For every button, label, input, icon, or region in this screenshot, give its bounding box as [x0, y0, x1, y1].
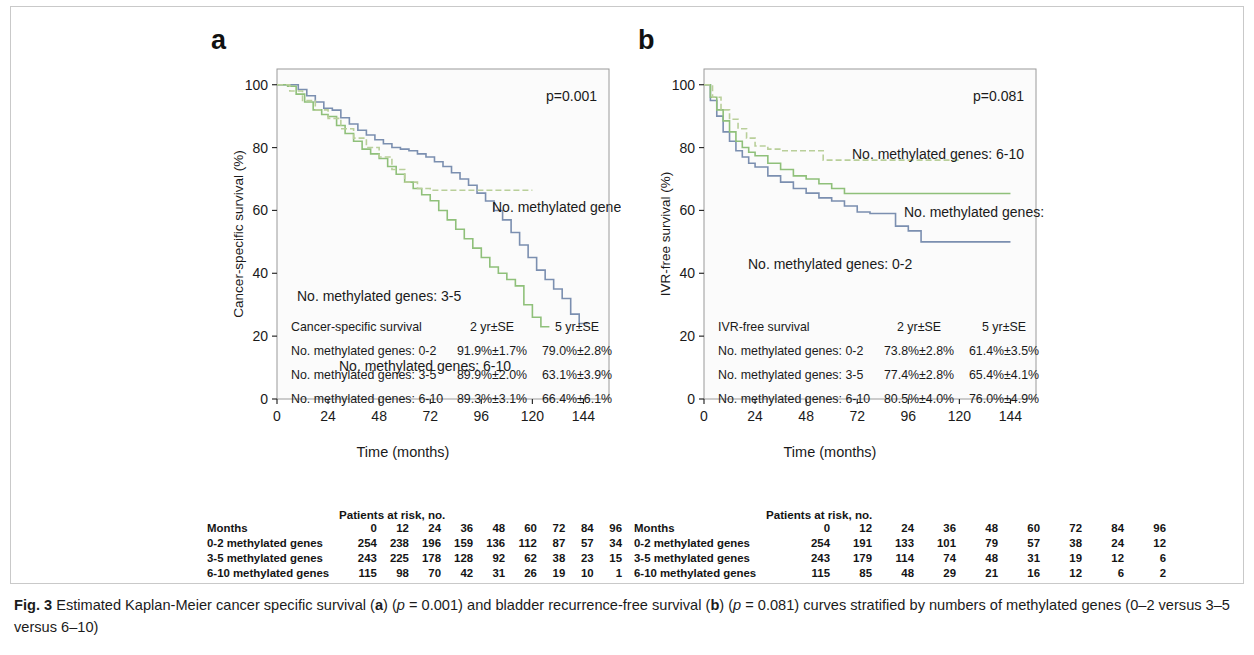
inset-col-2yr: 2 yr±SE — [470, 320, 514, 334]
risk-cell: 31 — [1004, 552, 1046, 567]
risk-table-grid: Months012243648607284960-2 methylated ge… — [634, 522, 1172, 582]
inset-col-5yr: 5 yr±SE — [555, 320, 599, 334]
y-tick-label: 60 — [252, 202, 268, 218]
inset-cell-5yr: 63.1%±3.9% — [542, 368, 612, 382]
risk-cell: 136 — [479, 537, 511, 552]
risk-cell: 57 — [1004, 537, 1046, 552]
inset-cell-5yr: 66.4%±6.1% — [542, 392, 612, 406]
risk-row-label: 3-5 methylated genes — [207, 552, 351, 567]
caption-p-italic-2: p — [733, 597, 741, 613]
curve-annotation-2: No. methylated genes: 3-5 — [297, 288, 461, 304]
risk-cell: 6 — [1088, 567, 1130, 582]
curve-annotation-1: No. methylated genes: 0-2 — [492, 199, 621, 215]
y-tick-label: 80 — [679, 140, 695, 156]
x-tick-label: 120 — [948, 408, 972, 424]
caption-p-italic-1: p — [397, 597, 405, 613]
risk-cell: 38 — [1046, 537, 1088, 552]
risk-cell: 1 — [600, 567, 628, 582]
curve-annotation-1: No. methylated genes: 6-10 — [852, 146, 1024, 162]
risk-cell: 12 — [1088, 552, 1130, 567]
table-row: 3-5 methylated genes24322517812892623823… — [207, 552, 628, 567]
caption-ref-a: a — [375, 597, 383, 613]
risk-cell: 196 — [415, 537, 447, 552]
risk-cell: 26 — [511, 567, 543, 582]
caption-text-1: Estimated Kaplan-Meier cancer specific s… — [56, 597, 375, 613]
risk-month-header: 96 — [600, 522, 628, 537]
risk-month-header: 0 — [794, 522, 836, 537]
panel-a-risk-table: Patients at risk, no. Months012243648607… — [207, 508, 628, 582]
y-tick-label: 0 — [687, 391, 695, 407]
risk-cell: 12 — [1130, 537, 1172, 552]
x-tick-label: 0 — [273, 408, 281, 424]
inset-row-label: No. methylated genes: 0-2 — [718, 344, 863, 358]
table-row: 6-10 methylated genes115987042312619101 — [207, 567, 628, 582]
inset-row-label: No. methylated genes: 0-2 — [291, 344, 436, 358]
panel-b-letter: b — [638, 25, 655, 56]
risk-cell: 178 — [415, 552, 447, 567]
inset-cell-2yr: 91.9%±1.7% — [457, 344, 527, 358]
risk-cell: 101 — [920, 537, 962, 552]
x-tick-label: 96 — [474, 408, 490, 424]
risk-cell: 254 — [351, 537, 383, 552]
figure-frame: a 020406080100024487296120144Time (month… — [10, 6, 1244, 584]
panel-b-svg: 020406080100024487296120144Time (months)… — [656, 59, 1048, 489]
risk-cell: 179 — [836, 552, 878, 567]
risk-table-title: Patients at risk, no. — [634, 508, 1172, 521]
x-axis-title: Time (months) — [357, 444, 450, 460]
risk-cell: 15 — [600, 552, 628, 567]
risk-header-row: Months01224364860728496 — [207, 522, 628, 537]
risk-cell: 225 — [383, 552, 415, 567]
risk-cell: 16 — [1004, 567, 1046, 582]
risk-table-title: Patients at risk, no. — [207, 508, 628, 521]
risk-cell: 12 — [1046, 567, 1088, 582]
risk-cell: 133 — [878, 537, 920, 552]
risk-cell: 115 — [794, 567, 836, 582]
curve-annotation-2: No. methylated genes: 3-5 — [904, 204, 1048, 220]
inset-cell-2yr: 77.4%±2.8% — [884, 368, 954, 382]
inset-col-2yr: 2 yr±SE — [897, 320, 941, 334]
panel-b-risk-table: Patients at risk, no. Months012243648607… — [634, 508, 1172, 582]
inset-cell-5yr: 61.4%±3.5% — [969, 344, 1039, 358]
x-tick-label: 0 — [700, 408, 708, 424]
inset-col-5yr: 5 yr±SE — [982, 320, 1026, 334]
panel-b: b 020406080100024487296120144Time (month… — [628, 7, 1245, 585]
risk-cell: 79 — [962, 537, 1004, 552]
risk-cell: 38 — [543, 552, 571, 567]
risk-row-label: Months — [207, 522, 351, 537]
risk-month-header: 48 — [479, 522, 511, 537]
risk-cell: 254 — [794, 537, 836, 552]
risk-cell: 92 — [479, 552, 511, 567]
y-tick-label: 100 — [672, 77, 696, 93]
risk-cell: 114 — [878, 552, 920, 567]
risk-cell: 6 — [1130, 552, 1172, 567]
risk-month-header: 36 — [447, 522, 479, 537]
y-tick-label: 100 — [245, 77, 269, 93]
inset-cell-2yr: 73.8%±2.8% — [884, 344, 954, 358]
inset-title: Cancer-specific survival — [291, 320, 422, 334]
risk-table-grid: Months012243648607284960-2 methylated ge… — [207, 522, 628, 582]
x-axis-title: Time (months) — [784, 444, 877, 460]
panel-a-svg: 020406080100024487296120144Time (months)… — [229, 59, 621, 489]
caption-text-3: ) ( — [719, 597, 733, 613]
risk-row-label: Months — [634, 522, 794, 537]
risk-cell: 87 — [543, 537, 571, 552]
risk-cell: 74 — [920, 552, 962, 567]
risk-row-label: 0-2 methylated genes — [634, 537, 794, 552]
inset-row-label: No. methylated genes: 3-5 — [291, 368, 436, 382]
y-tick-label: 0 — [260, 391, 268, 407]
risk-cell: 115 — [351, 567, 383, 582]
risk-cell: 238 — [383, 537, 415, 552]
risk-cell: 24 — [1088, 537, 1130, 552]
table-row: 0-2 methylated genes25423819615913611287… — [207, 537, 628, 552]
x-tick-label: 144 — [999, 408, 1023, 424]
risk-month-header: 60 — [1004, 522, 1046, 537]
risk-cell: 34 — [600, 537, 628, 552]
inset-row-label: No. methylated genes: 3-5 — [718, 368, 863, 382]
risk-cell: 29 — [920, 567, 962, 582]
caption-p-value-1: = 0.001) and bladder recurrence-free sur… — [405, 597, 710, 613]
x-tick-label: 120 — [521, 408, 545, 424]
risk-header-row: Months01224364860728496 — [634, 522, 1172, 537]
risk-row-label: 3-5 methylated genes — [634, 552, 794, 567]
risk-cell: 98 — [383, 567, 415, 582]
inset-cell-5yr: 79.0%±2.8% — [542, 344, 612, 358]
